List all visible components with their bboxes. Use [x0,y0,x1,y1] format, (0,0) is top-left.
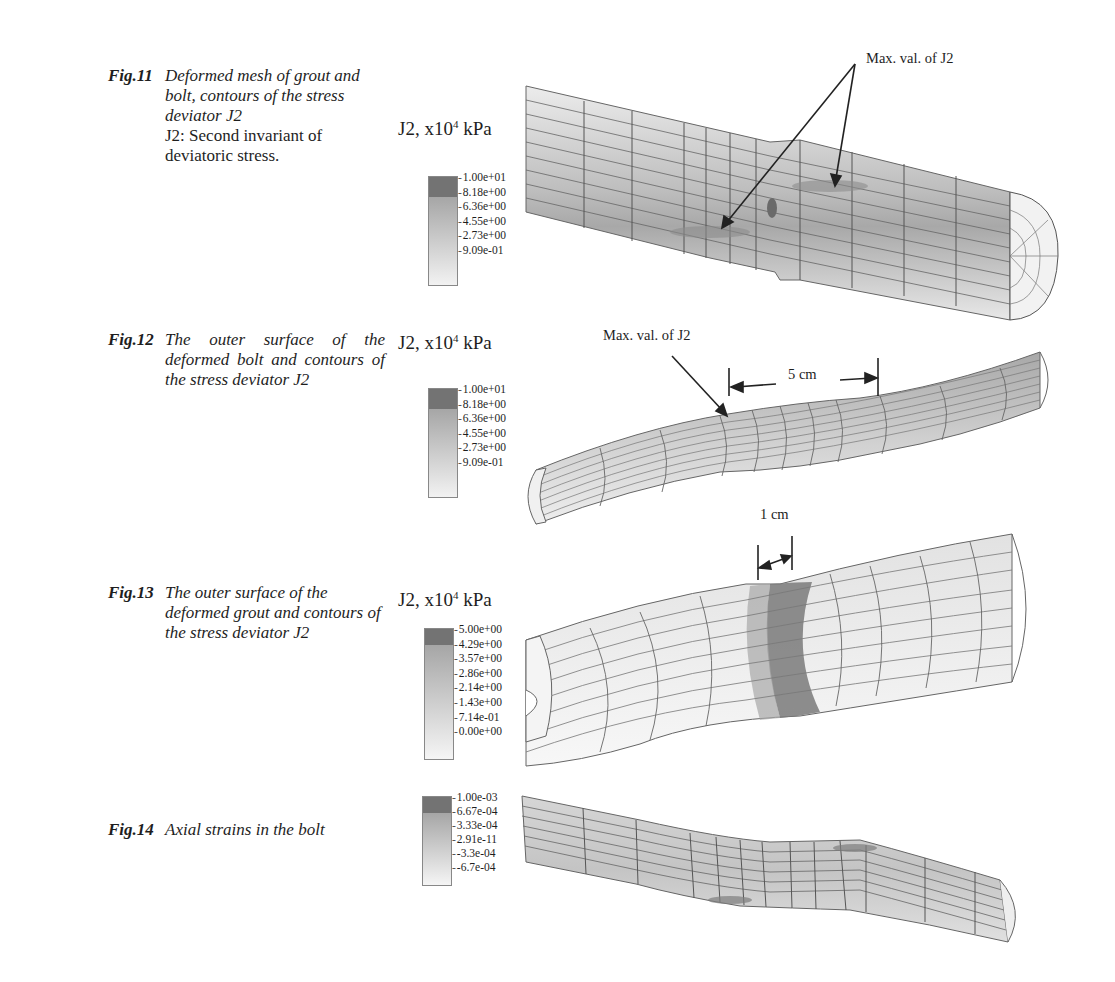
fig14-strain-image [0,0,1115,982]
